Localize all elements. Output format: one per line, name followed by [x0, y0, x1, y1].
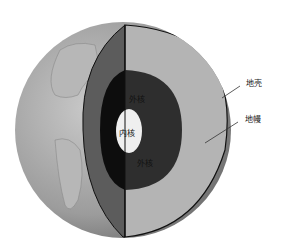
- leader-crust: [222, 86, 240, 98]
- label-mantle: 地幔: [245, 114, 261, 124]
- label-crust: 地壳: [246, 78, 262, 88]
- label-outer-core-bottom: 外核: [137, 158, 153, 168]
- label-inner-core: 内核: [119, 128, 135, 138]
- label-outer-core-top: 外核: [129, 94, 145, 104]
- earth-structure-diagram: 外核 内核 外核 地壳 地幔: [0, 0, 285, 251]
